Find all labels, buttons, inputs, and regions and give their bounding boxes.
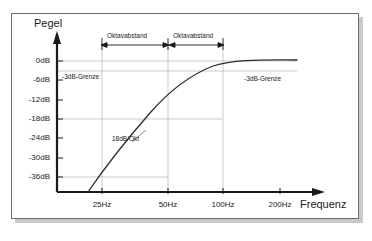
octave-label-left: Oktavabstand — [107, 33, 147, 40]
ytick-label-minus12db: -12dB — [14, 96, 50, 104]
figure-container: 0dB -6dB -12dB -18dB -24dB -30dB -36dB 2… — [0, 0, 372, 241]
xtick-label-25hz: 25Hz — [82, 201, 122, 209]
ytick-label-minus6db: -6dB — [14, 76, 50, 84]
vertical-gridlines — [102, 47, 223, 192]
x-axis — [57, 188, 325, 196]
x-axis-arrowhead — [312, 188, 325, 196]
ytick-label-minus24db: -24dB — [14, 134, 50, 142]
slope-label: 18dB/Okt — [112, 136, 139, 143]
octave-label-right: Oktavabstand — [173, 33, 213, 40]
xtick-label-200hz: 200Hz — [260, 201, 300, 209]
limit-label-left: -3dB-Grenze — [62, 74, 99, 81]
ytick-label-minus18db: -18dB — [14, 115, 50, 123]
y-axis — [53, 31, 61, 192]
y-axis-arrowhead — [53, 31, 61, 44]
y-axis-title: Pegel — [34, 18, 62, 29]
ytick-label-minus36db: -36dB — [14, 173, 50, 181]
xtick-label-100hz: 100Hz — [203, 201, 243, 209]
octave-span-left — [101, 38, 169, 50]
ytick-label-0db: 0dB — [14, 57, 50, 65]
octave-span-right — [169, 38, 224, 50]
xtick-label-50hz: 50Hz — [148, 201, 188, 209]
ytick-label-minus30db: -30dB — [14, 154, 50, 162]
x-axis-title: Frequenz — [300, 199, 346, 210]
limit-label-right: -3dB-Grenze — [244, 76, 281, 83]
octave-right-arrow-start — [169, 43, 175, 48]
